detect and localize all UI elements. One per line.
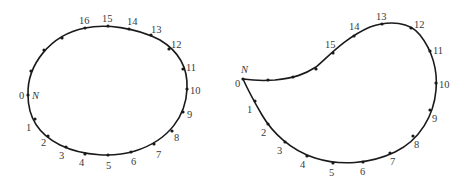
right-point-marker <box>305 154 308 157</box>
right-point-label: 10 <box>439 79 450 90</box>
right-point-label: 4 <box>300 159 306 170</box>
left-point-marker <box>83 26 86 29</box>
left-point-label: 7 <box>156 149 161 160</box>
right-point-marker <box>388 151 391 154</box>
left-point-marker <box>26 93 29 96</box>
left-point-marker <box>106 153 109 156</box>
left-point-label: 2 <box>41 137 46 148</box>
right-point-marker <box>428 108 431 111</box>
left-ellipse-labels: 012345678910111213141516 <box>19 13 201 171</box>
right-point-marker <box>266 78 269 81</box>
right-point-label: 7 <box>390 156 395 167</box>
right-point-marker <box>283 140 286 143</box>
right-point-marker <box>291 75 294 78</box>
right-point-label: 11 <box>433 45 443 56</box>
right-cam-figure: 0123456789101112131415 N <box>235 11 450 178</box>
left-point-label: 8 <box>174 132 179 143</box>
left-point-marker <box>181 67 184 70</box>
right-point-label: 9 <box>432 113 437 124</box>
right-point-marker <box>314 67 317 70</box>
left-ellipse-curve <box>28 26 187 155</box>
left-point-marker <box>127 27 130 30</box>
right-point-marker <box>241 77 244 80</box>
right-point-label: 6 <box>360 166 365 177</box>
right-point-marker <box>331 51 334 54</box>
left-point-marker <box>129 150 132 153</box>
right-point-marker <box>411 134 414 137</box>
left-point-marker <box>46 134 49 137</box>
left-point-label: 14 <box>127 16 138 27</box>
left-point-marker <box>29 69 32 72</box>
right-point-label: 13 <box>376 11 387 22</box>
right-point-marker <box>361 160 364 163</box>
left-point-label: 15 <box>102 13 113 24</box>
right-point-marker <box>428 49 431 52</box>
left-point-marker <box>60 36 63 39</box>
right-point-label: 2 <box>261 127 266 138</box>
left-point-marker <box>42 48 45 51</box>
left-point-marker <box>83 152 86 155</box>
left-point-label: 16 <box>79 15 90 26</box>
left-point-label: 10 <box>190 85 201 96</box>
right-cam-labels: 0123456789101112131415 <box>235 11 450 178</box>
left-point-marker <box>185 87 188 90</box>
right-point-marker <box>266 122 269 125</box>
right-point-marker <box>409 26 412 29</box>
right-point-label: 1 <box>247 104 252 115</box>
right-point-marker <box>380 22 383 25</box>
right-start-label-n: N <box>240 64 249 75</box>
left-point-label: 1 <box>26 122 31 133</box>
left-point-label: 9 <box>187 109 192 120</box>
left-point-marker <box>181 110 184 113</box>
right-point-label: 8 <box>414 139 419 150</box>
left-ellipse-figure: 012345678910111213141516 N <box>19 13 201 171</box>
right-point-label: 15 <box>325 39 336 50</box>
right-point-marker <box>434 81 437 84</box>
right-point-marker <box>352 34 355 37</box>
left-point-label: 3 <box>59 150 64 161</box>
left-start-label-n: N <box>31 90 40 101</box>
right-point-label: 12 <box>414 19 425 30</box>
left-point-label: 12 <box>171 39 182 50</box>
left-point-label: 5 <box>106 160 111 171</box>
left-point-label: 13 <box>151 24 162 35</box>
right-point-label: 5 <box>329 167 334 178</box>
left-point-marker <box>152 142 155 145</box>
right-point-marker <box>331 161 334 164</box>
right-point-label: 14 <box>349 21 360 32</box>
left-point-label: 0 <box>19 90 24 101</box>
right-point-marker <box>253 99 256 102</box>
left-point-label: 11 <box>186 62 196 73</box>
left-point-marker <box>106 24 109 27</box>
left-point-marker <box>33 117 36 120</box>
right-cam-curve <box>243 23 436 163</box>
left-point-marker <box>64 145 67 148</box>
left-point-label: 6 <box>131 156 136 167</box>
cam-profile-diagram: 012345678910111213141516 N 0123456789101… <box>0 0 465 186</box>
right-point-label: 3 <box>277 145 282 156</box>
left-point-label: 4 <box>79 157 85 168</box>
right-point-label: 0 <box>235 78 240 89</box>
